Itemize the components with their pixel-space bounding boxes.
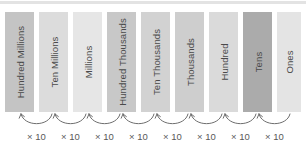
place-value-bar-label: Hundred Millions xyxy=(14,26,25,98)
place-value-bar: Tens xyxy=(243,12,272,112)
place-value-bar-label: Tens xyxy=(252,52,263,72)
place-value-chart: Hundred MillionsTen MillionsMillionsHund… xyxy=(0,0,306,151)
place-value-bar: Ten Thousands xyxy=(141,12,170,112)
place-value-bars-row: Hundred MillionsTen MillionsMillionsHund… xyxy=(0,12,306,112)
multiplier-label: × 10 xyxy=(19,131,54,142)
multiplier-label: × 10 xyxy=(53,131,88,142)
multiplier-label: × 10 xyxy=(223,131,258,142)
multiply-arrow-icon xyxy=(257,112,292,132)
place-value-bar: Hundred xyxy=(209,12,238,112)
place-value-bar-label: Hundred xyxy=(218,43,229,80)
multiply-arrow-icon xyxy=(155,112,190,132)
place-value-bar-label: Millions xyxy=(82,46,93,78)
multiply-arrows-row xyxy=(0,112,306,132)
place-value-bar: Hundred Thousands xyxy=(107,12,136,112)
multiply-arrow-icon xyxy=(223,112,258,132)
multiplier-label: × 10 xyxy=(189,131,224,142)
place-value-bar: Millions xyxy=(73,12,102,112)
place-value-bar-label: Thousands xyxy=(184,38,195,86)
place-value-bar: Ten Millions xyxy=(39,12,68,112)
multiplier-label: × 10 xyxy=(121,131,156,142)
place-value-bar-label: Ones xyxy=(284,50,295,73)
multiplier-labels-row: × 10× 10× 10× 10× 10× 10× 10× 10 xyxy=(0,131,306,149)
place-value-bar: Thousands xyxy=(175,12,204,112)
multiplier-label: × 10 xyxy=(155,131,190,142)
place-value-bar-label: Ten Millions xyxy=(48,37,59,88)
multiply-arrow-icon xyxy=(19,112,54,132)
place-value-bar-label: Hundred Thousands xyxy=(116,18,127,106)
place-value-bar: Ones xyxy=(277,12,301,112)
place-value-bar: Hundred Millions xyxy=(5,12,34,112)
multiplier-label: × 10 xyxy=(87,131,122,142)
multiply-arrow-icon xyxy=(121,112,156,132)
multiply-arrow-icon xyxy=(189,112,224,132)
place-value-bar-label: Ten Thousands xyxy=(150,29,161,95)
multiply-arrow-icon xyxy=(87,112,122,132)
multiply-arrow-icon xyxy=(53,112,88,132)
top-divider-band xyxy=(0,1,306,4)
multiplier-label: × 10 xyxy=(257,131,292,142)
